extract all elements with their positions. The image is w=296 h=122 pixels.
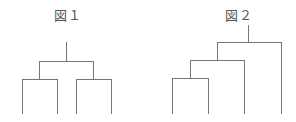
figure-2-dendrogram [172, 25, 282, 114]
figure-1-dendrogram [22, 42, 112, 114]
dendrogram-canvas [0, 0, 296, 122]
